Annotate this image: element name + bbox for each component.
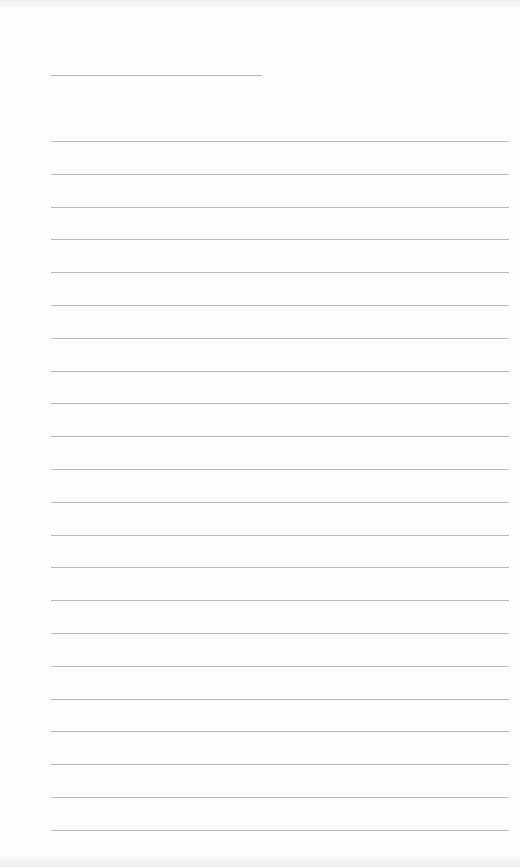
ruled-line <box>51 239 509 240</box>
ruled-line <box>51 338 509 339</box>
ruled-line <box>51 830 509 831</box>
ruled-line <box>51 666 509 667</box>
ruled-line <box>51 305 509 306</box>
ruled-line <box>51 797 509 798</box>
ruled-line <box>51 764 509 765</box>
ruled-line <box>51 600 509 601</box>
ruled-line <box>51 535 509 536</box>
header-name-line <box>51 75 262 76</box>
ruled-line <box>51 699 509 700</box>
ruled-line <box>51 371 509 372</box>
ruled-line <box>51 272 509 273</box>
bottom-edge-shadow <box>0 853 520 867</box>
ruled-line <box>51 731 509 732</box>
ruled-line <box>51 567 509 568</box>
ruled-line <box>51 633 509 634</box>
ruled-line <box>51 502 509 503</box>
ruled-line <box>51 207 509 208</box>
ruled-line <box>51 403 509 404</box>
ruled-line <box>51 174 509 175</box>
ruled-line <box>51 436 509 437</box>
top-edge-shadow <box>0 0 520 10</box>
ruled-line <box>51 141 509 142</box>
ruled-line <box>51 469 509 470</box>
